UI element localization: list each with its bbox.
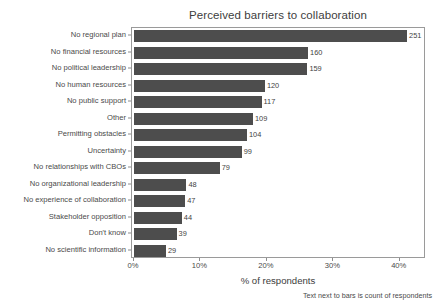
bar-row: 48: [132, 179, 424, 191]
bar-value-label: 99: [244, 148, 252, 155]
bars-layer: 25116015912011710910499794847443929: [132, 28, 424, 257]
bar-row: 29: [132, 245, 424, 257]
bar: [134, 47, 308, 59]
bar-value-label: 160: [310, 49, 322, 56]
chart-caption: Text next to bars is count of respondent…: [303, 291, 432, 300]
bar: [134, 30, 407, 42]
bar-value-label: 159: [309, 66, 321, 73]
bar-row: 251: [132, 30, 424, 42]
chart-title: Perceived barriers to collaboration: [131, 9, 425, 21]
x-axis-tick-label: 30%: [325, 262, 340, 270]
bar: [134, 245, 166, 257]
y-axis-label: No regional plan: [71, 31, 126, 39]
bar-value-label: 29: [168, 247, 176, 254]
y-axis-label: No relationships with CBOs: [34, 163, 126, 171]
bar: [134, 228, 177, 240]
bar-row: 120: [132, 80, 424, 92]
x-axis-tick-labels: 0%10%20%30%40%: [131, 262, 425, 274]
bar: [134, 195, 185, 207]
bar-row: 160: [132, 47, 424, 59]
y-axis-label: No financial resources: [51, 48, 126, 56]
bar-value-label: 117: [264, 99, 276, 106]
bar-row: 47: [132, 195, 424, 207]
bar-value-label: 48: [188, 181, 196, 188]
bar: [134, 63, 307, 75]
y-axis-label: No organizational leadership: [30, 180, 126, 188]
bar-value-label: 79: [222, 165, 230, 172]
plot-panel: 25116015912011710910499794847443929: [131, 27, 425, 258]
x-axis-tick-label: 10%: [192, 262, 207, 270]
bar-value-label: 104: [249, 132, 261, 139]
y-axis-label: Uncertainty: [88, 147, 126, 155]
y-axis-label: Permitting obstacles: [58, 130, 126, 138]
bar-value-label: 44: [184, 214, 192, 221]
bar-row: 79: [132, 162, 424, 174]
bar-row: 109: [132, 113, 424, 125]
bar-value-label: 109: [255, 115, 267, 122]
x-axis-title: % of respondents: [131, 275, 425, 286]
bar-row: 117: [132, 96, 424, 108]
y-axis-label: Other: [107, 114, 126, 122]
bar-value-label: 251: [409, 33, 421, 40]
bar: [134, 96, 262, 108]
x-axis-tick-label: 20%: [258, 262, 273, 270]
y-axis-label: No experience of collaboration: [23, 196, 126, 204]
bar-value-label: 47: [187, 198, 195, 205]
bar-row: 44: [132, 212, 424, 224]
y-axis-label: Stakeholder opposition: [49, 213, 126, 221]
chart-figure: Perceived barriers to collaboration No r…: [0, 0, 438, 303]
bar-row: 159: [132, 63, 424, 75]
y-axis-label: No political leadership: [52, 64, 126, 72]
bar-value-label: 39: [179, 231, 187, 238]
bar-row: 39: [132, 228, 424, 240]
y-axis-label: Don't know: [89, 229, 126, 237]
bar: [134, 113, 253, 125]
bar-row: 104: [132, 129, 424, 141]
bar: [134, 162, 220, 174]
x-axis-tick-label: 40%: [391, 262, 406, 270]
bar: [134, 80, 265, 92]
y-axis-label: No public support: [67, 97, 126, 105]
bar-row: 99: [132, 146, 424, 158]
y-axis-label: No human resources: [56, 81, 127, 89]
bar: [134, 146, 242, 158]
y-axis-labels: No regional planNo financial resourcesNo…: [0, 27, 126, 258]
y-axis-label: No scientific information: [45, 246, 126, 254]
bar: [134, 212, 182, 224]
bar: [134, 179, 186, 191]
bar-value-label: 120: [267, 82, 279, 89]
bar: [134, 129, 247, 141]
x-axis-tick-label: 0%: [128, 262, 139, 270]
